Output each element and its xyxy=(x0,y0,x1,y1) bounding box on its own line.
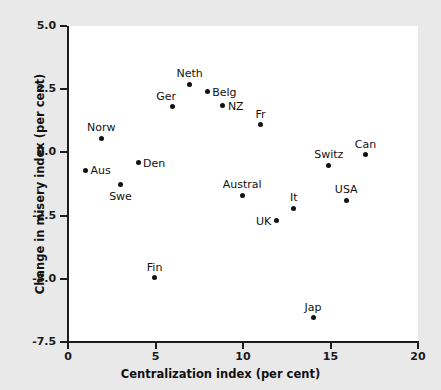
x-tick-label: 15 xyxy=(311,350,351,363)
data-point[interactable] xyxy=(83,168,88,173)
data-point-label: NZ xyxy=(228,100,244,111)
y-tick-label: 5.0 xyxy=(16,19,56,32)
y-tick-mark xyxy=(60,151,67,153)
scatter-chart-figure: 5.02.50.0-2.5-5.0-7.5 05101520 AusNorwSw… xyxy=(0,0,441,390)
data-point-label: Switz xyxy=(314,149,343,160)
data-point-label: Austral xyxy=(223,179,262,190)
x-tick-mark xyxy=(417,343,419,349)
data-point[interactable] xyxy=(326,163,331,168)
y-tick-label-wrap: -7.5 xyxy=(16,335,56,349)
data-point[interactable] xyxy=(344,198,349,203)
data-point-label: Aus xyxy=(91,165,111,176)
data-point[interactable] xyxy=(118,182,123,187)
x-tick-mark xyxy=(67,343,69,349)
data-point[interactable] xyxy=(291,206,296,211)
y-tick-mark xyxy=(60,341,67,343)
data-point-label: USA xyxy=(335,184,358,195)
data-point-label: Fr xyxy=(255,109,265,120)
data-point[interactable] xyxy=(274,218,279,223)
data-point[interactable] xyxy=(136,160,141,165)
y-axis-title: Change in misery index (per cent) xyxy=(33,64,47,304)
y-axis-line xyxy=(67,26,69,343)
data-point-label: Ger xyxy=(156,91,176,102)
x-tick-label: 0 xyxy=(48,350,88,363)
data-point[interactable] xyxy=(205,89,210,94)
data-point-label: Belg xyxy=(212,86,236,97)
data-point-label: It xyxy=(290,192,298,203)
data-point-label: Can xyxy=(355,139,376,150)
x-tick-label: 5 xyxy=(136,350,176,363)
x-tick-label: 20 xyxy=(398,350,438,363)
y-tick-mark xyxy=(60,278,67,280)
data-point[interactable] xyxy=(240,193,245,198)
y-tick-mark xyxy=(60,215,67,217)
x-tick-mark xyxy=(155,343,157,349)
data-point[interactable] xyxy=(187,82,192,87)
y-tick-label: -7.5 xyxy=(16,335,56,348)
data-point-label: Norw xyxy=(87,122,115,133)
x-tick-label: 10 xyxy=(223,350,263,363)
y-tick-mark xyxy=(60,88,67,90)
data-point[interactable] xyxy=(99,136,104,141)
x-tick-mark xyxy=(242,343,244,349)
y-tick-mark xyxy=(60,25,67,27)
data-point-label: Fin xyxy=(147,262,163,273)
x-axis-title: Centralization index (per cent) xyxy=(0,367,441,381)
data-point-label: Neth xyxy=(176,68,202,79)
y-tick-label-wrap: 5.0 xyxy=(16,19,56,33)
x-tick-mark xyxy=(330,343,332,349)
data-point-label: Jap xyxy=(305,302,322,313)
data-point-label: UK xyxy=(256,215,271,226)
data-point-label: Swe xyxy=(109,191,132,202)
data-point-label: Den xyxy=(143,157,165,168)
